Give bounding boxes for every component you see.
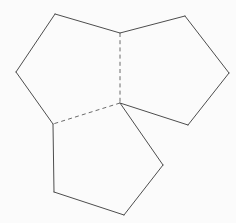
bottom-pentagon-left-edge: [53, 124, 54, 192]
dashed-edges-group: [53, 33, 120, 124]
bottom-pentagon-bottom-edge: [54, 192, 124, 215]
right-pentagon-lower-right-edge: [188, 73, 229, 125]
left-pentagon-top-left-edge: [16, 14, 55, 72]
right-pentagon-bottom-edge: [120, 103, 188, 125]
bottom-pentagon-upper-right-edge: [120, 103, 163, 165]
solid-edges-group: [16, 14, 229, 215]
polygon-faces: [16, 14, 229, 215]
hidden-edge-diagonal: [53, 103, 120, 124]
pentagon-net-drawing: [0, 0, 236, 223]
right-pentagon-top-edge: [120, 16, 185, 33]
figure-canvas: [0, 0, 236, 223]
right-pentagon-upper-right-edge: [185, 16, 229, 73]
bottom-pentagon-face: [53, 103, 163, 215]
left-pentagon-top-right-edge: [55, 14, 120, 33]
left-pentagon-west-lower-edge: [16, 72, 53, 124]
bottom-pentagon-lower-right-edge: [124, 165, 163, 215]
